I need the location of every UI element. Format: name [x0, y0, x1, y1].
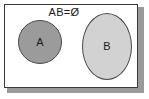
set-a-label: A: [36, 37, 44, 48]
set-a-circle: A: [18, 20, 62, 64]
set-b-label: B: [103, 41, 111, 52]
set-b-ellipse: B: [82, 13, 132, 80]
universe-frame: AB=Ø A B: [4, 4, 138, 88]
venn-diagram-figure: AB=Ø A B: [0, 0, 149, 99]
